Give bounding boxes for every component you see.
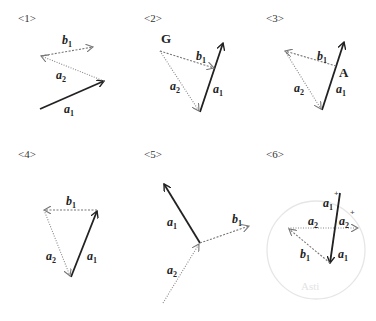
label-b1: b1 <box>317 49 327 65</box>
faint-watermark-text: Asti <box>301 280 319 292</box>
label-a2-right: a2 <box>339 214 349 230</box>
vector-b1 <box>200 226 249 243</box>
label-a2: a2 <box>56 68 66 84</box>
plus-mark-top: + <box>334 189 339 198</box>
panel-6-label: <6> <box>266 148 284 160</box>
label-a2: a2 <box>170 79 180 95</box>
vector-a1 <box>40 81 104 109</box>
panel-3-label: <3> <box>266 12 284 24</box>
panel-4-label: <4> <box>18 148 36 160</box>
vector-a2 <box>160 51 199 111</box>
plus-mark-right: + <box>350 208 355 217</box>
panel-3: <3> b1 A a2 a1 <box>266 12 349 110</box>
panel-6: <6> Asti + + a1 a2 a2 b1 a1 <box>266 148 365 299</box>
label-a1: a1 <box>213 82 223 98</box>
point-a-label: A <box>339 65 349 80</box>
label-a1-bottom: a1 <box>338 247 348 263</box>
label-b1: b1 <box>232 212 242 228</box>
label-b1: b1 <box>300 247 310 263</box>
vector-a1 <box>71 211 97 277</box>
label-a1-top: a1 <box>323 196 333 212</box>
label-a1: a1 <box>87 249 97 265</box>
panel-5-label: <5> <box>144 148 162 160</box>
panel-4: <4> b1 a2 a1 <box>18 148 97 277</box>
label-a1: a1 <box>336 82 346 98</box>
panel-2: <2> G b1 a2 a1 <box>144 12 223 112</box>
label-a1: a1 <box>167 215 177 231</box>
vector-a2 <box>41 56 104 81</box>
vector-a2 <box>44 210 70 276</box>
label-b1: b1 <box>66 194 76 210</box>
label-a2: a2 <box>294 81 304 97</box>
vector-a1 <box>200 43 223 112</box>
vector-b1 <box>285 51 336 66</box>
panel-2-label: <2> <box>144 12 162 24</box>
label-a2: a2 <box>167 263 177 279</box>
vector-b1 <box>41 47 93 56</box>
label-a2: a2 <box>46 249 56 265</box>
label-b1: b1 <box>62 33 72 49</box>
point-g-label: G <box>161 31 171 46</box>
vector-diagram-canvas: <1> b1 a2 a1 <2> G b1 a2 a1 <3> b1 A a2 … <box>0 0 376 321</box>
label-a2-left: a2 <box>308 214 318 230</box>
panel-5: <5> a1 b1 a2 <box>144 148 249 303</box>
label-b1: b1 <box>196 49 206 65</box>
panel-1-label: <1> <box>18 12 36 24</box>
label-a1: a1 <box>64 102 74 118</box>
vector-a1 <box>164 184 200 243</box>
panel-1: <1> b1 a2 a1 <box>18 12 104 118</box>
